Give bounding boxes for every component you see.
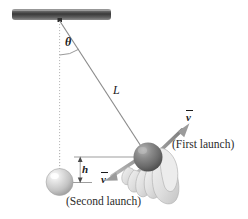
velocity-second-label: v bbox=[101, 172, 108, 185]
diagram-canvas bbox=[0, 0, 248, 219]
held-pendulum-bob bbox=[134, 143, 163, 172]
height-label: h bbox=[82, 164, 88, 175]
angle-label: θ bbox=[65, 36, 71, 48]
pendulum-launch-figure: θ L h v v (First launch) (Second launch) bbox=[0, 0, 248, 219]
velocity-first-label: v bbox=[186, 110, 193, 123]
length-label: L bbox=[113, 84, 120, 96]
caption-second-launch: (Second launch) bbox=[66, 196, 141, 208]
theta-angle-arc bbox=[60, 49, 79, 55]
caption-first-launch: (First launch) bbox=[172, 139, 234, 151]
pendulum-string bbox=[60, 21, 148, 157]
resting-pendulum-bob bbox=[46, 169, 73, 196]
